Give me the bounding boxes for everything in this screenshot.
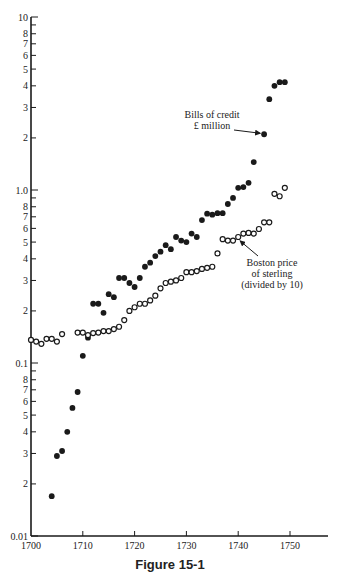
data-point-open — [168, 279, 173, 284]
y-tick-label: 5 — [23, 64, 28, 75]
data-point-open — [111, 327, 116, 332]
data-point-open — [272, 191, 277, 196]
y-tick-label: 3 — [23, 102, 28, 113]
data-point-open — [184, 270, 189, 275]
data-point-filled — [163, 242, 169, 248]
data-point-open — [153, 293, 158, 298]
data-point-filled — [277, 79, 283, 85]
data-point-open — [127, 308, 132, 313]
data-point-filled — [158, 249, 164, 255]
data-point-filled — [64, 429, 70, 435]
data-point-filled — [194, 234, 200, 240]
x-tick-label: 1730 — [176, 540, 196, 551]
data-point-open — [205, 265, 210, 270]
data-point-filled — [215, 210, 221, 216]
data-point-open — [49, 336, 54, 341]
data-point-open — [44, 336, 49, 341]
data-point-filled — [209, 212, 215, 218]
data-point-filled — [178, 238, 184, 244]
data-point-open — [91, 331, 96, 336]
data-point-filled — [121, 275, 127, 281]
y-tick-label: 2 — [23, 132, 28, 143]
data-point-filled — [70, 405, 76, 411]
y-tick-label: 6 — [23, 50, 28, 61]
annotation-text: Bills of credit — [185, 109, 240, 120]
y-tick-label: 3 — [23, 448, 28, 459]
data-point-open — [241, 231, 246, 236]
data-point-open — [225, 238, 230, 243]
data-point-open — [34, 339, 39, 344]
y-tick-label: 10 — [18, 12, 28, 23]
y-tick-label: 7 — [23, 38, 28, 49]
data-point-open — [158, 286, 163, 291]
data-point-open — [39, 341, 44, 346]
y-tick-label: 4 — [23, 426, 28, 437]
annotations: Bills of credit£ millionBoston priceof s… — [185, 109, 303, 291]
data-point-open — [101, 329, 106, 334]
x-tick-label: 1750 — [280, 540, 300, 551]
data-point-filled — [272, 83, 278, 89]
data-point-filled — [204, 211, 210, 217]
data-point-open — [277, 194, 282, 199]
data-point-filled — [75, 389, 81, 395]
data-point-filled — [261, 131, 267, 137]
data-point-filled — [80, 353, 86, 359]
data-point-open — [117, 324, 122, 329]
data-point-filled — [199, 217, 205, 223]
data-point-filled — [230, 195, 236, 201]
data-point-open — [106, 329, 111, 334]
data-point-filled — [266, 96, 272, 102]
y-tick-label: 2 — [23, 305, 28, 316]
data-point-filled — [147, 260, 153, 266]
y-tick-label: 7 — [23, 384, 28, 395]
annotation-arrow — [234, 130, 260, 133]
y-tick-label: 3 — [23, 275, 28, 286]
y-tick-label: 4 — [23, 80, 28, 91]
data-point-open — [132, 305, 137, 310]
data-point-open — [256, 227, 261, 232]
log-scale-scatter-chart: 1087654321.087654320.187654320.011700171… — [0, 0, 340, 580]
annotation-text: of sterling — [252, 268, 293, 279]
data-point-filled — [106, 291, 112, 297]
data-point-open — [80, 330, 85, 335]
data-point-open — [194, 269, 199, 274]
data-point-open — [142, 301, 147, 306]
x-tick-label: 1710 — [73, 540, 93, 551]
data-point-open — [189, 270, 194, 275]
data-point-filled — [132, 284, 138, 290]
data-point-filled — [246, 180, 252, 186]
y-tick-label: 2 — [23, 478, 28, 489]
data-point-filled — [137, 275, 143, 281]
data-point-filled — [282, 79, 288, 85]
data-point-filled — [54, 453, 60, 459]
data-point-filled — [59, 448, 65, 454]
data-point-open — [174, 278, 179, 283]
data-point-open — [60, 332, 65, 337]
y-tick-label: 6 — [23, 223, 28, 234]
data-point-open — [148, 298, 153, 303]
data-point-open — [163, 281, 168, 286]
data-point-open — [54, 339, 59, 344]
data-point-open — [122, 318, 127, 323]
data-point-open — [85, 333, 90, 338]
x-tick-label: 1700 — [21, 540, 41, 551]
data-point-filled — [95, 301, 101, 307]
data-point-filled — [240, 184, 246, 190]
annotation-text: Boston price — [247, 257, 298, 268]
data-point-open — [179, 275, 184, 280]
data-point-filled — [101, 310, 107, 316]
data-point-open — [262, 220, 267, 225]
data-point-open — [251, 231, 256, 236]
data-point-filled — [49, 493, 55, 499]
data-point-open — [210, 264, 215, 269]
data-point-open — [137, 301, 142, 306]
y-tick-label: 7 — [23, 211, 28, 222]
data-point-filled — [189, 231, 195, 237]
annotation-text: (divided by 10) — [241, 279, 303, 291]
y-tick-label: 5 — [23, 410, 28, 421]
data-point-filled — [251, 159, 257, 165]
data-point-filled — [152, 253, 158, 259]
data-point-open — [236, 234, 241, 239]
y-tick-label: 1.0 — [16, 185, 29, 196]
annotation-boston-price: Boston priceof sterling(divided by 10) — [240, 241, 303, 291]
